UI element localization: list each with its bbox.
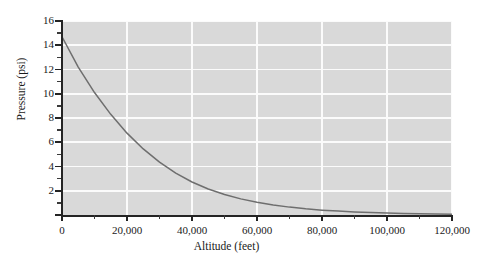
x-tick-minor [354, 215, 356, 219]
y-tick-minor [57, 105, 61, 106]
y-tick-major [55, 141, 61, 143]
chart-figure: 0246810121416 020,00040,00060,00080,0001… [0, 0, 493, 269]
x-axis-title: Altitude (feet) [0, 240, 493, 252]
x-tick-major [321, 215, 323, 221]
y-tick-major [55, 20, 61, 22]
x-tick-minor [94, 215, 96, 219]
pressure-altitude-curve [62, 21, 452, 215]
x-tick-major [451, 215, 453, 221]
y-axis-title: Pressure (psi) [15, 24, 27, 154]
x-axis-title-text: Altitude (feet) [194, 240, 259, 252]
x-tick-minor [159, 215, 161, 219]
y-tick-major [55, 214, 61, 216]
y-tick-minor [57, 57, 61, 58]
y-tick-major [55, 166, 61, 168]
x-tick-major [191, 215, 193, 221]
y-tick-label: 4 [14, 161, 54, 172]
x-tick-minor [289, 215, 291, 219]
x-tick-major [386, 215, 388, 221]
plot-area [62, 21, 452, 215]
y-tick-label: 2 [14, 185, 54, 196]
x-tick-major [61, 215, 63, 221]
y-tick-major [55, 93, 61, 95]
y-tick-minor [57, 32, 61, 33]
y-tick-minor [57, 178, 61, 179]
y-tick-minor [57, 129, 61, 130]
x-tick-major [256, 215, 258, 221]
y-tick-minor [57, 81, 61, 82]
y-axis-line [61, 20, 63, 217]
x-tick-major [126, 215, 128, 221]
y-tick-minor [57, 154, 61, 155]
x-tick-label: 120,000 [412, 224, 492, 236]
x-tick-minor [224, 215, 226, 219]
y-tick-major [55, 190, 61, 192]
y-tick-major [55, 69, 61, 71]
x-tick-minor [419, 215, 421, 219]
y-tick-minor [57, 202, 61, 203]
y-tick-major [55, 44, 61, 46]
y-tick-major [55, 117, 61, 119]
